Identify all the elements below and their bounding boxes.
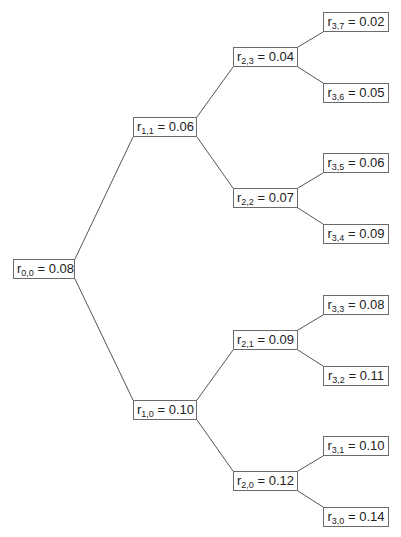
node-r32: r3,2 = 0.11 [323,366,389,386]
edge-r21-r32 [298,350,323,366]
node-r00: r0,0 = 0.08 [13,259,75,279]
node-r35: r3,5 = 0.06 [323,153,389,173]
edge-r22-r35 [298,173,323,188]
edge-r10-r20 [197,420,233,471]
node-subscript: 1,0 [141,409,154,419]
node-subscript: 2,3 [241,56,254,66]
node-value: = 0.08 [34,261,74,276]
node-r36: r3,6 = 0.05 [323,83,389,103]
node-r21: r2,1 = 0.09 [233,330,298,350]
node-subscript: 3,2 [332,375,345,385]
node-value: = 0.09 [254,332,294,347]
node-value: = 0.14 [344,509,384,524]
edge-r20-r31 [298,456,323,471]
node-subscript: 3,5 [332,162,345,172]
node-r23: r2,3 = 0.04 [233,47,298,67]
edge-r22-r34 [298,208,323,224]
node-subscript: 0,0 [21,268,34,278]
edge-r20-r30 [298,491,323,507]
node-subscript: 3,6 [332,92,345,102]
node-value: = 0.04 [254,49,294,64]
node-value: = 0.10 [154,402,194,417]
edge-r21-r33 [298,315,323,330]
node-subscript: 2,1 [241,339,254,349]
edge-r00-r11 [75,137,133,259]
edge-r00-r10 [75,279,133,400]
node-value: = 0.09 [344,226,384,241]
node-subscript: 2,2 [241,197,254,207]
node-value: = 0.02 [344,14,384,29]
node-value: = 0.07 [254,190,294,205]
node-value: = 0.11 [345,368,384,383]
node-r34: r3,4 = 0.09 [323,224,389,244]
node-value: = 0.06 [154,119,194,134]
node-value: = 0.08 [344,297,384,312]
node-subscript: 3,7 [332,21,345,31]
node-r31: r3,1 = 0.10 [323,436,389,456]
node-r10: r1,0 = 0.10 [133,400,197,420]
node-value: = 0.06 [344,155,384,170]
node-subscript: 3,1 [332,445,345,455]
node-subscript: 3,4 [332,233,345,243]
node-r30: r3,0 = 0.14 [323,507,389,527]
node-r11: r1,1 = 0.06 [133,117,197,137]
node-subscript: 3,3 [332,304,345,314]
node-r33: r3,3 = 0.08 [323,295,389,315]
node-r22: r2,2 = 0.07 [233,188,298,208]
edge-r23-r36 [298,67,323,83]
node-subscript: 1,1 [141,126,154,136]
node-value: = 0.12 [254,473,294,488]
edge-r11-r23 [197,67,233,117]
node-r20: r2,0 = 0.12 [233,471,298,491]
node-subscript: 2,0 [241,480,254,490]
node-value: = 0.05 [344,85,384,100]
node-subscript: 3,0 [332,516,345,526]
node-r37: r3,7 = 0.02 [323,12,389,32]
edge-r23-r37 [298,32,323,47]
edge-r11-r22 [197,137,233,188]
edge-r10-r21 [197,350,233,400]
node-value: = 0.10 [344,438,384,453]
